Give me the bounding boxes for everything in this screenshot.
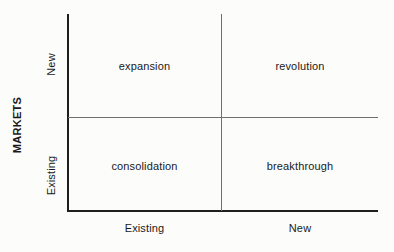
x-axis-label-new: New bbox=[222, 222, 378, 235]
y-axis-label-existing: Existing bbox=[45, 139, 58, 213]
y-axis-title: MARKETS bbox=[11, 70, 25, 180]
quadrant-label-breakthrough: breakthrough bbox=[222, 160, 378, 173]
vertical-divider bbox=[221, 14, 222, 211]
y-axis-label-new: New bbox=[45, 35, 58, 95]
x-axis-label-existing: Existing bbox=[68, 222, 221, 235]
horizontal-divider bbox=[68, 117, 378, 118]
quadrant-label-revolution: revolution bbox=[222, 60, 378, 73]
matrix-diagram: MARKETS New Existing expansion revolutio… bbox=[0, 0, 394, 252]
y-axis-line bbox=[67, 14, 69, 212]
quadrant-label-consolidation: consolidation bbox=[68, 160, 221, 173]
quadrant-label-expansion: expansion bbox=[68, 60, 221, 73]
x-axis-line bbox=[67, 210, 378, 212]
